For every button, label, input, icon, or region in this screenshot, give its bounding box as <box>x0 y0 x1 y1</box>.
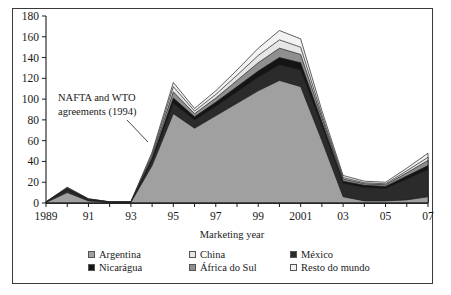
legend-label: México <box>301 249 333 260</box>
y-tick-labels: 020406080100120140160180 <box>22 10 40 209</box>
legend-item-resto-do-mundo[interactable]: Resto do mundo <box>290 262 391 273</box>
legend-swatch-icon <box>290 264 297 271</box>
annotation-leader-line <box>127 120 148 142</box>
legend-item-méxico[interactable]: México <box>290 249 391 260</box>
legend-row: NicaráguaÁfrica do SulResto do mundo <box>88 262 393 273</box>
x-tick-label: 1989 <box>35 210 58 222</box>
legend-label: Argentina <box>99 249 141 260</box>
legend-item-nicarágua[interactable]: Nicarágua <box>88 262 189 273</box>
y-tick-label: 100 <box>22 93 40 105</box>
x-tick-label: 91 <box>83 210 95 222</box>
x-tick-label: 95 <box>168 210 180 222</box>
legend-label: Resto do mundo <box>301 262 370 273</box>
x-tick-label: 97 <box>210 210 222 222</box>
x-tick-label: 07 <box>422 210 434 222</box>
legend-item-argentina[interactable]: Argentina <box>88 249 189 260</box>
y-tick-label: 120 <box>22 72 40 84</box>
annotation-line-1: NAFTA and WTO <box>58 92 136 103</box>
x-tick-label: 05 <box>380 210 392 222</box>
y-tick-label: 160 <box>22 31 40 43</box>
x-tick-label: 2001 <box>289 210 312 222</box>
legend-row: ArgentinaChinaMéxico <box>88 249 393 260</box>
x-tick-label: 93 <box>125 210 137 222</box>
annotation-group: NAFTA and WTOagreements (1994) <box>58 92 148 142</box>
y-tick-label: 180 <box>22 10 40 22</box>
legend-swatch-icon <box>189 251 196 258</box>
y-tick-label: 40 <box>28 155 40 167</box>
x-axis-title: Marketing year <box>200 229 265 240</box>
y-tick-label: 20 <box>28 176 40 188</box>
y-tick-label: 0 <box>33 197 39 209</box>
legend-item-china[interactable]: China <box>189 249 290 260</box>
x-tick-labels: 198991939597992001030507 <box>35 210 435 222</box>
legend-swatch-icon <box>290 251 297 258</box>
legend-label: Nicarágua <box>99 262 142 273</box>
x-tick-label: 03 <box>337 210 349 222</box>
y-tick-label: 60 <box>28 135 40 147</box>
chart-svg: 020406080100120140160180 198991939597992… <box>0 0 451 245</box>
legend-swatch-icon <box>88 251 95 258</box>
legend-label: África do Sul <box>200 262 257 273</box>
legend-item-áfrica-do-sul[interactable]: África do Sul <box>189 262 290 273</box>
chart-legend: ArgentinaChinaMéxicoNicaráguaÁfrica do S… <box>88 249 393 275</box>
legend-label: China <box>200 249 225 260</box>
annotation-line-2: agreements (1994) <box>58 106 137 118</box>
y-tick-label: 140 <box>22 52 40 64</box>
y-tick-label: 80 <box>28 114 40 126</box>
legend-swatch-icon <box>88 264 95 271</box>
x-tick-label: 99 <box>252 210 264 222</box>
legend-swatch-icon <box>189 264 196 271</box>
